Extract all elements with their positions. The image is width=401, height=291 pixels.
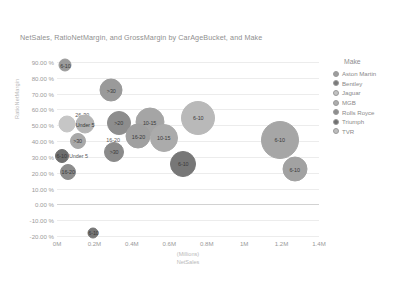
bubble-label: 6-10 <box>178 161 188 167</box>
legend-item-mgb[interactable]: MGB <box>333 98 399 108</box>
y-axis-tick-label: 50.00 % <box>32 122 54 129</box>
bubble-label: 6-10 <box>289 166 299 172</box>
bubble-label: >20 <box>114 120 123 126</box>
legend-item-rolls-royce[interactable]: Rolls Royce <box>333 107 399 117</box>
legend-swatch-icon <box>333 90 339 96</box>
gridline <box>57 78 319 79</box>
y-axis-tick-label: 0.00 % <box>35 201 54 208</box>
legend-swatch-icon <box>333 128 339 134</box>
data-bubble[interactable]: 10-15 <box>150 124 178 152</box>
gridline <box>57 204 319 205</box>
data-bubble[interactable]: 6-10 <box>261 121 299 159</box>
y-axis-tick-label: 70.00 % <box>32 90 54 97</box>
bubble-label: 10-15 <box>143 119 156 125</box>
bubble-label: >30 <box>73 138 82 144</box>
x-axis-title-units: (Millions) <box>57 251 319 259</box>
legend-swatch-icon <box>333 109 339 115</box>
legend-items: Aston MartinBentleyJaguarMGBRolls RoyceT… <box>333 69 399 136</box>
gridline <box>57 220 319 221</box>
data-bubble[interactable]: 6-10 <box>88 227 99 238</box>
bubble-label: 16-20 <box>62 169 75 175</box>
x-axis-tick-label: 0.4M <box>125 240 139 247</box>
data-bubble[interactable]: 6-10 <box>59 59 72 72</box>
x-axis-title: (Millions) NetSales <box>57 251 319 266</box>
x-axis-title-field: NetSales <box>57 259 319 267</box>
data-bubble[interactable]: 6-10 <box>282 157 307 182</box>
bubble-label: 6-10 <box>88 230 98 236</box>
x-axis-tick-label: 0.8M <box>200 240 214 247</box>
y-axis-ticks: 90.00 %80.00 %70.00 %60.00 %50.00 %40.00… <box>10 62 54 236</box>
chart-title: NetSales, RatioNetMargin, and GrossMargi… <box>20 33 262 42</box>
bubble-label: 10-15 <box>157 135 170 141</box>
y-axis-tick-label: -20.00 % <box>30 233 54 240</box>
bubble-chart: NetSales, RatioNetMargin, and GrossMargi… <box>0 0 401 291</box>
legend-item-bentley[interactable]: Bentley <box>333 79 399 89</box>
legend-item-jaguar[interactable]: Jaguar <box>333 88 399 98</box>
bubble-label: 6-10 <box>60 62 70 68</box>
legend-swatch-icon <box>333 100 339 106</box>
gridline <box>57 94 319 95</box>
gridline <box>57 62 319 63</box>
legend-item-label: Aston Martin <box>342 70 376 77</box>
legend-item-label: Bentley <box>342 80 362 87</box>
gridline <box>57 189 319 190</box>
legend-swatch-icon <box>333 119 339 125</box>
x-axis-tick-label: 0.6M <box>163 240 177 247</box>
legend-swatch-icon <box>333 71 339 77</box>
data-bubble[interactable]: >30 <box>70 133 86 149</box>
y-axis-tick-label: 60.00 % <box>32 106 54 113</box>
legend-item-tvr[interactable]: TVR <box>333 127 399 137</box>
data-bubble[interactable]: 6-10 <box>170 151 196 177</box>
x-axis-tick-label: 1.2M <box>275 240 289 247</box>
legend: Make Aston MartinBentleyJaguarMGBRolls R… <box>333 58 399 136</box>
x-axis-tick-label: 1M <box>240 240 248 247</box>
y-axis-tick-label: -10.00 % <box>30 217 54 224</box>
legend-item-aston-martin[interactable]: Aston Martin <box>333 69 399 79</box>
data-bubble[interactable]: 16-20 <box>126 124 151 149</box>
data-bubble[interactable]: Under 5 <box>76 115 95 134</box>
x-axis-tick-label: 1.4M <box>312 240 326 247</box>
data-bubble[interactable]: >30 <box>100 79 123 102</box>
data-bubble[interactable]: 16-20 <box>60 164 76 180</box>
x-axis-tick-label: 0M <box>53 240 61 247</box>
data-bubble[interactable]: 6-10 <box>55 149 69 163</box>
legend-item-triumph[interactable]: Triumph <box>333 117 399 127</box>
legend-title: Make <box>333 58 399 65</box>
data-bubble[interactable]: >30 <box>104 142 124 162</box>
y-axis-tick-label: 30.00 % <box>32 153 54 160</box>
legend-item-label: Triumph <box>342 118 364 125</box>
plot-area: 6-10>3026-30Under 5>2010-156-10>3016-201… <box>57 62 319 236</box>
bubble-label: Under 5 <box>69 153 88 159</box>
y-axis-tick-label: 40.00 % <box>32 138 54 145</box>
bubble-label: 16-20 <box>132 133 145 139</box>
legend-item-label: TVR <box>342 128 354 135</box>
legend-swatch-icon <box>333 80 339 86</box>
data-bubble[interactable]: 6-10 <box>181 101 215 135</box>
legend-item-label: Jaguar <box>342 89 361 96</box>
y-axis-tick-label: 10.00 % <box>32 185 54 192</box>
y-axis-tick-label: 80.00 % <box>32 74 54 81</box>
y-axis-tick-label: 90.00 % <box>32 59 54 66</box>
bubble-label: 6-10 <box>56 153 66 159</box>
data-bubble[interactable] <box>59 116 76 133</box>
y-axis-tick-label: 20.00 % <box>32 169 54 176</box>
bubble-label: Under 5 <box>76 121 94 127</box>
bubble-label: >30 <box>107 87 116 93</box>
x-axis-tick-label: 0.2M <box>88 240 102 247</box>
legend-item-label: Rolls Royce <box>342 109 375 116</box>
bubble-label: 6-10 <box>193 115 203 121</box>
legend-item-label: MGB <box>342 99 356 106</box>
bubble-label: >30 <box>110 149 119 155</box>
bubble-label: 6-10 <box>274 137 284 143</box>
